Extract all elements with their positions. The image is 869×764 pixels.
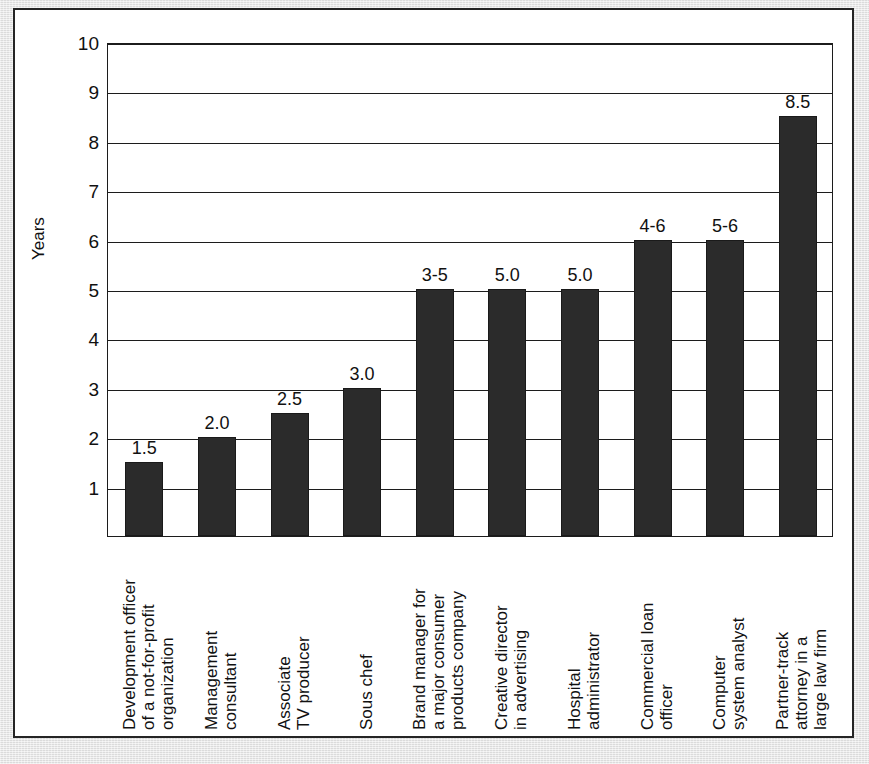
x-axis-category-label-line: TV producer [294, 636, 313, 730]
bar-value-label: 3.0 [350, 365, 375, 383]
x-axis-category-label: AssociateTV producer [275, 636, 313, 730]
clipped-caption-text [33, 1, 593, 10]
x-axis-category-label: Development officerof a not-for-profitor… [120, 579, 177, 730]
bar-value-label: 5-6 [712, 217, 738, 235]
y-axis-tick-label: 3 [59, 379, 99, 398]
bar-value-label: 8.5 [785, 93, 810, 111]
x-axis-category-label: Commercial loanofficer [638, 602, 676, 730]
x-axis-category-label-line: of a not-for-profit [139, 579, 158, 730]
plot-area: 1.52.02.53.03-55.05.04-65-68.5 [107, 43, 833, 537]
x-axis-category-label-line: administrator [584, 632, 603, 730]
bar [488, 289, 526, 536]
y-axis-tick-label: 1 [59, 478, 99, 497]
x-axis-category-label: Sous chef [357, 654, 376, 730]
x-axis-category-label-line: Hospital [565, 632, 584, 730]
bar [343, 388, 381, 536]
x-axis-category-label-line: Brand manager for [410, 588, 429, 730]
x-axis-category-label-line: in advertising [511, 605, 530, 730]
gridline [108, 192, 832, 193]
x-axis-category-label-line: system analyst [729, 618, 748, 730]
x-axis-category-label-line: Sous chef [357, 654, 376, 730]
x-axis-category-label: Managementconsultant [202, 631, 240, 730]
x-axis-category-label-line: Development officer [120, 579, 139, 730]
x-axis-category-label-line: large law firm [811, 629, 830, 730]
bar-value-label: 4-6 [639, 217, 665, 235]
y-axis-tick-label: 8 [59, 132, 99, 151]
x-axis-category-label-line: Management [202, 631, 221, 730]
x-axis-category-label-line: officer [657, 602, 676, 730]
y-axis-tick-label: 5 [59, 281, 99, 300]
bar [779, 116, 817, 536]
bar-chart: Years 12345678910 1.52.02.53.03-55.05.04… [15, 10, 856, 740]
bar-value-label: 2.5 [277, 390, 302, 408]
x-axis-category-label-line: products company [448, 588, 467, 730]
bar-value-label: 1.5 [132, 439, 157, 457]
x-axis-category-label-line: consultant [221, 631, 240, 730]
x-axis-category-label: Creative directorin advertising [492, 605, 530, 730]
bar [125, 462, 163, 536]
x-axis-category-label-line: Commercial loan [638, 602, 657, 730]
gridline [108, 44, 832, 45]
x-axis-category-label-line: organization [158, 579, 177, 730]
bar [634, 240, 672, 536]
bar [271, 413, 309, 537]
y-axis-tick-labels: 12345678910 [53, 43, 99, 537]
y-axis-tick-label: 2 [59, 429, 99, 448]
y-axis-tick-label: 9 [59, 83, 99, 102]
x-axis-category-label: Hospitaladministrator [565, 632, 603, 730]
x-axis-category-label-line: attorney in a [792, 629, 811, 730]
bar [198, 437, 236, 536]
x-axis-category-label-line: a major consumer [429, 588, 448, 730]
y-axis-tick-label: 7 [59, 182, 99, 201]
y-axis-title: Years [29, 217, 49, 260]
y-axis-tick-label: 4 [59, 330, 99, 349]
x-axis-category-label-line: Creative director [492, 605, 511, 730]
figure-frame: Years 12345678910 1.52.02.53.03-55.05.04… [13, 8, 854, 738]
y-axis-tick-label: 10 [59, 34, 99, 53]
bar [706, 240, 744, 536]
bar [416, 289, 454, 536]
gridline [108, 93, 832, 94]
gridline [108, 143, 832, 144]
bar-value-label: 5.0 [567, 266, 592, 284]
x-axis-category-label-line: Computer [710, 618, 729, 730]
bar-value-label: 2.0 [204, 414, 229, 432]
x-axis-category-label: Partner-trackattorney in alarge law firm [773, 629, 830, 730]
x-axis-category-label-line: Associate [275, 636, 294, 730]
bar-value-label: 5.0 [495, 266, 520, 284]
bar [561, 289, 599, 536]
x-axis-category-label: Computersystem analyst [710, 618, 748, 730]
y-axis-tick-label: 6 [59, 231, 99, 250]
x-axis-category-label-line: Partner-track [773, 629, 792, 730]
bar-value-label: 3-5 [422, 266, 448, 284]
x-axis-category-labels: Development officerof a not-for-profitor… [107, 544, 833, 734]
x-axis-category-label: Brand manager fora major consumerproduct… [410, 588, 467, 730]
